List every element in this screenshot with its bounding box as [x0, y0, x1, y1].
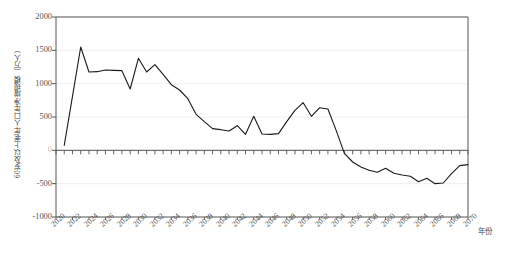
gridlines	[56, 17, 468, 184]
y-axis-ticks	[52, 17, 56, 217]
chart-container: 60岁及以上老年人口年净增规模（万人） 2000150010005000-500…	[0, 0, 505, 261]
data-series-line	[64, 47, 468, 184]
plot-area	[0, 0, 505, 261]
x-axis-ticks	[56, 150, 468, 220]
